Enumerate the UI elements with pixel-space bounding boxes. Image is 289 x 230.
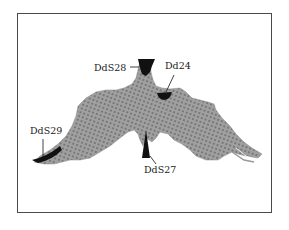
dds27-leader	[150, 156, 156, 164]
label-dds28: DdS28	[94, 63, 126, 73]
label-dds29: DdS29	[30, 126, 62, 136]
label-dds27: DdS27	[144, 165, 176, 175]
label-dd24: Dd24	[165, 61, 191, 71]
specimen-figure	[0, 0, 289, 230]
